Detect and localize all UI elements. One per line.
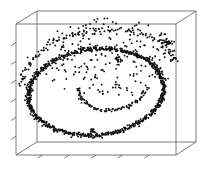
data-point: [125, 31, 127, 33]
data-point: [133, 50, 135, 52]
data-point: [60, 49, 62, 51]
data-point: [160, 34, 162, 36]
data-point: [130, 53, 132, 55]
data-point: [88, 38, 90, 40]
data-point: [27, 98, 29, 100]
data-point: [30, 95, 32, 97]
data-point: [170, 59, 172, 61]
data-point: [73, 74, 75, 76]
data-point: [30, 113, 32, 115]
data-point: [110, 50, 112, 52]
data-point: [116, 130, 118, 132]
data-point: [112, 131, 114, 133]
data-point: [135, 80, 137, 82]
data-point: [118, 84, 120, 86]
data-point: [101, 84, 103, 86]
data-point: [103, 23, 105, 25]
data-point: [144, 57, 146, 59]
data-point: [115, 23, 117, 25]
data-point: [116, 33, 118, 35]
data-point: [166, 46, 168, 48]
data-point: [29, 107, 31, 109]
data-point: [25, 68, 27, 70]
data-point: [39, 53, 41, 55]
data-point: [36, 69, 38, 71]
data-point: [128, 51, 130, 53]
data-point: [134, 25, 136, 27]
y-axis-tick: [11, 61, 16, 64]
data-point: [98, 135, 100, 137]
data-point: [129, 29, 131, 31]
data-point: [103, 70, 105, 72]
data-point: [60, 58, 62, 60]
data-point: [161, 73, 163, 75]
data-point: [34, 114, 36, 116]
data-point: [140, 65, 142, 67]
data-point: [101, 137, 103, 139]
data-point: [155, 69, 157, 71]
data-point: [160, 32, 162, 34]
data-point: [81, 99, 83, 101]
data-point: [104, 55, 106, 57]
data-point: [131, 42, 133, 44]
data-point: [161, 101, 163, 103]
data-point: [164, 41, 166, 43]
data-point: [123, 131, 125, 133]
data-point: [31, 108, 33, 110]
data-point: [58, 54, 60, 56]
data-point: [89, 23, 91, 25]
data-point: [156, 64, 158, 66]
data-point: [54, 45, 56, 47]
data-point: [92, 84, 94, 86]
data-point: [99, 47, 101, 49]
data-point: [62, 59, 64, 61]
data-point: [107, 29, 109, 31]
data-point: [30, 86, 32, 88]
data-point: [22, 70, 24, 72]
data-point: [72, 34, 74, 36]
data-point: [132, 27, 134, 29]
data-point: [104, 110, 106, 112]
data-point: [34, 77, 36, 79]
data-point: [47, 61, 49, 63]
data-point: [126, 87, 128, 89]
data-point: [140, 41, 142, 43]
data-point: [116, 44, 118, 46]
data-point: [140, 82, 142, 84]
data-point: [140, 118, 142, 120]
data-point: [92, 137, 94, 139]
data-point: [163, 82, 165, 84]
y-axis-tick: [11, 43, 16, 46]
data-point: [68, 133, 70, 135]
data-point: [120, 50, 122, 52]
data-point: [157, 104, 159, 106]
data-point: [94, 33, 96, 35]
data-point: [172, 50, 174, 52]
data-point: [74, 66, 76, 68]
data-point: [74, 55, 76, 57]
data-point: [122, 51, 124, 53]
data-point: [91, 49, 93, 51]
data-point: [116, 57, 118, 59]
data-point: [158, 40, 160, 42]
y-axis-tick: [11, 99, 16, 102]
data-point: [145, 33, 147, 35]
data-point: [82, 47, 84, 49]
data-point: [30, 62, 32, 64]
data-point: [151, 36, 153, 38]
data-point: [159, 101, 161, 103]
data-point: [95, 21, 97, 23]
data-point: [84, 49, 86, 51]
data-point: [61, 64, 63, 66]
data-point: [153, 38, 155, 40]
data-point: [52, 42, 54, 44]
data-point: [115, 68, 117, 70]
data-point: [170, 55, 172, 57]
data-point: [129, 34, 131, 36]
data-point: [93, 131, 95, 133]
data-point: [98, 28, 100, 30]
data-point: [35, 118, 37, 120]
data-point: [66, 35, 68, 37]
data-point: [124, 55, 126, 57]
data-point: [92, 28, 94, 30]
